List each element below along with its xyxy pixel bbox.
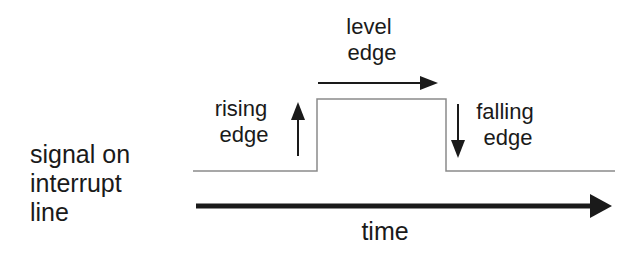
- time-axis-arrow-icon: [196, 194, 612, 218]
- signal-label: signal on interrupt line: [30, 140, 137, 226]
- rising-edge-arrow-icon: [291, 102, 305, 156]
- falling-edge-label: falling edge: [476, 99, 540, 150]
- interrupt-edge-diagram: level edge rising edge falling edge sign…: [0, 0, 640, 260]
- level-edge-arrow-icon: [318, 76, 438, 90]
- level-edge-label: level edge: [346, 14, 397, 65]
- time-label: time: [361, 217, 408, 245]
- rising-edge-label: rising edge: [215, 96, 274, 147]
- falling-edge-arrow-icon: [451, 104, 465, 158]
